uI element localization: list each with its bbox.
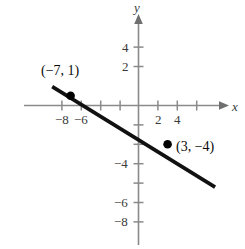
x-axis-label: x xyxy=(232,100,238,113)
data-point-marker xyxy=(66,92,75,101)
y-axis-label: y xyxy=(134,1,140,14)
point-label-first: (−7, 1) xyxy=(41,64,79,78)
x-tick-label-4: 4 xyxy=(174,113,181,126)
plotted-line xyxy=(52,87,215,188)
coordinate-plane xyxy=(0,0,245,249)
y-tick-label-4: 4 xyxy=(122,41,129,54)
y-tick-label-minus6: −6 xyxy=(114,196,128,209)
point-label-second: (3, −4) xyxy=(176,140,214,154)
y-tick-label-2: 2 xyxy=(122,60,129,73)
x-tick-label-minus6: −6 xyxy=(74,113,88,126)
data-point-marker xyxy=(163,140,172,149)
x-tick-label-minus8: −8 xyxy=(55,113,69,126)
graph-figure: −8 −6 2 4 4 2 −4 −6 −8 x y (−7, 1) (3, −… xyxy=(0,0,245,249)
y-axis-arrowhead xyxy=(134,14,143,24)
y-tick-label-minus4: −4 xyxy=(114,157,128,170)
x-axis-arrowhead xyxy=(219,101,229,110)
y-tick-label-minus8: −8 xyxy=(114,215,128,228)
x-tick-label-2: 2 xyxy=(155,113,162,126)
